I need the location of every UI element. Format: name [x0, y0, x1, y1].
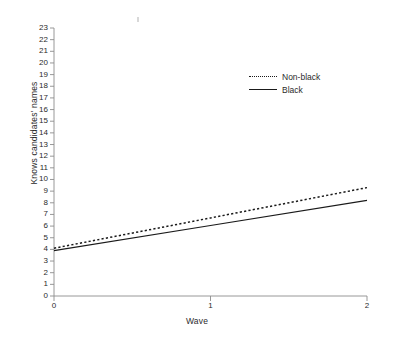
legend-swatch-solid-line	[249, 89, 277, 91]
y-axis-ticks	[50, 28, 54, 296]
legend-item-black: Black	[249, 83, 320, 96]
legend-label-non-black: Non-black	[282, 72, 320, 82]
legend: Non-black Black	[249, 70, 320, 96]
data-series-group	[54, 188, 367, 251]
data-line-non-black	[54, 188, 367, 249]
chart-figure: Knows candidates' names Wave 01234567891…	[0, 0, 394, 338]
legend-swatch-dotted-line	[249, 76, 277, 78]
data-line-black	[54, 200, 367, 250]
x-axis-ticks	[54, 296, 367, 301]
legend-label-black: Black	[282, 85, 303, 95]
axes	[54, 28, 367, 296]
legend-item-non-black: Non-black	[249, 70, 320, 83]
plot-area	[0, 0, 394, 338]
